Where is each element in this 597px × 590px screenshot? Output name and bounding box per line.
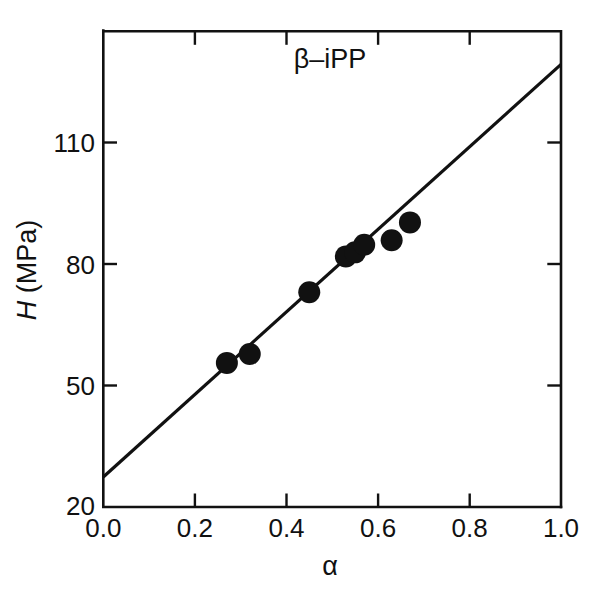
data-point	[353, 234, 375, 256]
x-axis-title: α	[322, 551, 338, 581]
x-tick-label-3: 0.6	[360, 513, 396, 543]
y-axis-title: H (MPa)	[12, 220, 42, 321]
regression-line	[103, 64, 561, 477]
y-tick-label-80: 80	[66, 250, 95, 280]
y-axis-title-units: (MPa)	[12, 220, 42, 301]
data-point	[381, 229, 403, 251]
plot-annotation-label: β–iPP	[294, 44, 367, 74]
y-tick-label-50: 50	[66, 371, 95, 401]
scatter-plot: 20 50 80 110 0.0 0.2 0.4 0.6 0.8 1.0 α H…	[0, 0, 597, 590]
data-points-layer	[216, 211, 421, 374]
data-point	[298, 281, 320, 303]
x-tick-label-0: 0.0	[85, 513, 121, 543]
data-point	[239, 343, 261, 365]
svg-text:H (MPa): H (MPa)	[12, 220, 42, 321]
x-tick-labels: 0.0 0.2 0.4 0.6 0.8 1.0	[85, 513, 579, 543]
chart-figure: 20 50 80 110 0.0 0.2 0.4 0.6 0.8 1.0 α H…	[0, 0, 597, 590]
data-point	[399, 211, 421, 233]
x-tick-label-4: 0.8	[452, 513, 488, 543]
y-axis-ticks	[103, 143, 561, 386]
data-point	[216, 352, 238, 374]
y-tick-label-110: 110	[54, 128, 95, 158]
y-tick-labels: 20 50 80 110	[54, 128, 95, 521]
y-axis-title-symbol: H	[12, 300, 42, 320]
fit-line-layer	[103, 64, 561, 477]
x-tick-label-1: 0.2	[177, 513, 213, 543]
x-tick-label-2: 0.4	[268, 513, 304, 543]
x-tick-label-5: 1.0	[543, 513, 579, 543]
